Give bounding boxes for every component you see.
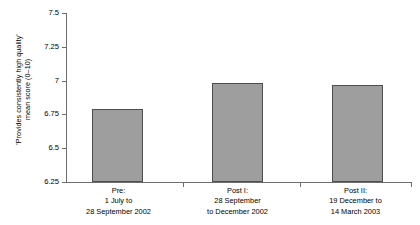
y-tick-label-7: 7 [55,76,59,85]
y-tick-7: 7 [62,81,66,82]
plot-area: 7.5 7.25 7 6.75 6.5 6.25 [66,13,412,182]
x-label-pre-line-2: 1 July to [60,196,177,206]
y-axis-title-line-2: mean score (0–10) [23,4,32,174]
bar-chart: 'Provides consistently high quality' mea… [0,0,420,225]
x-label-post-i-line-3: to December 2002 [179,207,296,217]
x-label-pre-line-1: Pre: [60,186,177,196]
y-tick-7.5: 7.5 [62,13,66,14]
y-tick-6.5: 6.5 [62,148,66,149]
bar-pre[interactable] [92,109,143,182]
y-tick-label-6.5: 6.5 [48,143,59,152]
x-label-post-ii-line-3: 14 March 2003 [297,207,414,217]
x-label-post-i: Post I: 28 September to December 2002 [179,186,296,217]
x-label-pre: Pre: 1 July to 28 September 2002 [60,186,177,217]
y-axis-line [66,13,67,182]
y-tick-label-7.5: 7.5 [48,8,59,17]
bar-post-ii[interactable] [332,85,383,182]
x-label-post-ii-line-1: Post II: [297,186,414,196]
y-tick-label-6.75: 6.75 [44,109,59,118]
x-label-post-ii-line-2: 19 December to [297,196,414,206]
bar-post-i[interactable] [212,83,263,182]
y-tick-label-6.25: 6.25 [44,177,59,186]
y-tick-label-7.25: 7.25 [44,42,59,51]
y-tick-6.75: 6.75 [62,114,66,115]
y-axis-title: 'Provides consistently high quality' mea… [14,4,33,174]
x-label-post-i-line-1: Post I: [179,186,296,196]
y-tick-6.25: 6.25 [62,182,66,183]
x-label-post-ii: Post II: 19 December to 14 March 2003 [297,186,414,217]
x-axis-line [66,182,412,183]
x-axis-labels: Pre: 1 July to 28 September 2002 Post I:… [66,186,412,224]
x-label-pre-line-3: 28 September 2002 [60,207,177,217]
x-label-post-i-line-2: 28 September [179,196,296,206]
y-tick-7.25: 7.25 [62,47,66,48]
y-axis-title-line-1: 'Provides consistently high quality' [14,4,23,174]
